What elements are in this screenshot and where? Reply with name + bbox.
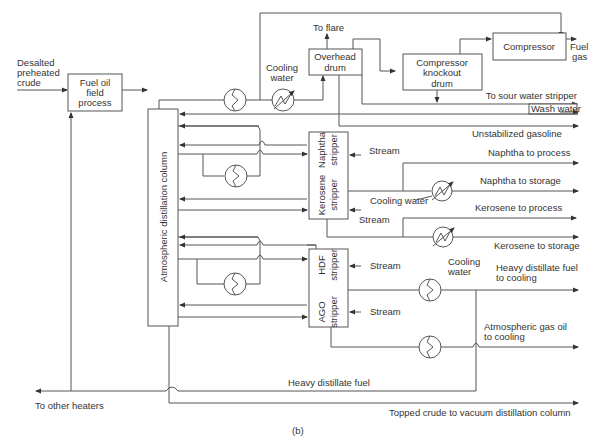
overhead-heat-exchanger-icon bbox=[224, 89, 246, 111]
ago-cooler-icon bbox=[419, 336, 441, 358]
naphtha-vapor-return-line bbox=[180, 141, 307, 145]
heavy-distillate-fuel-to-cooling-label: Heavy distillate fuel to cooling bbox=[496, 262, 578, 283]
kerosene-to-process-label: Kerosene to process bbox=[475, 202, 562, 213]
svg-text:AGO: AGO bbox=[316, 301, 327, 322]
kerosene-cooler-icon bbox=[433, 227, 454, 247]
to-flare-label: To flare bbox=[313, 22, 344, 33]
svg-text:Compressor: Compressor bbox=[503, 41, 555, 52]
compressor-box: Compressor bbox=[493, 33, 566, 60]
unstabilized-gasoline-label: Unstabilized gasoline bbox=[472, 128, 562, 139]
naphtha-kerosene-stripper-box: Naphtha stripper Kerosene stripper bbox=[309, 131, 348, 219]
hdf-cooler-icon bbox=[419, 279, 441, 301]
pumparound-1-exchanger-icon bbox=[225, 165, 247, 187]
svg-text:HDF: HDF bbox=[316, 255, 327, 275]
svg-text:to cooling: to cooling bbox=[484, 331, 525, 342]
topped-crude-label: Topped crude to vacuum distillation colu… bbox=[389, 407, 571, 418]
pumparound-2-line bbox=[197, 259, 224, 284]
hdf-top-stub bbox=[307, 245, 316, 249]
atmospheric-gas-oil-to-cooling-label: Atmospheric gas oil to cooling bbox=[484, 321, 567, 342]
kerosene-to-storage-label: Kerosene to storage bbox=[494, 240, 580, 251]
crude-distillation-flow-diagram: Desalted preheated crude Fuel oil field … bbox=[0, 0, 597, 448]
cooling-water-top-label: Cooling water bbox=[266, 62, 298, 83]
svg-text:Naphtha: Naphtha bbox=[316, 131, 327, 168]
hdf-draw-line bbox=[178, 255, 307, 259]
cooling-water-mid-label: Cooling water bbox=[370, 195, 428, 206]
svg-text:Atmospheric distillation colum: Atmospheric distillation column bbox=[158, 152, 169, 282]
knockout-to-compressor-line bbox=[460, 39, 491, 54]
svg-text:drum: drum bbox=[431, 78, 453, 89]
naphtha-draw-line bbox=[178, 150, 307, 154]
feed-label: Desalted preheated crude bbox=[17, 57, 60, 88]
svg-text:process: process bbox=[78, 97, 112, 108]
overhead-drum-box: Overhead drum bbox=[309, 49, 362, 75]
to-other-heaters-line bbox=[36, 387, 178, 391]
hdf-vapor-return-line bbox=[180, 241, 316, 245]
svg-text:to cooling: to cooling bbox=[496, 272, 537, 283]
ago-product-line bbox=[331, 327, 419, 347]
svg-text:knockout: knockout bbox=[423, 67, 461, 78]
naphtha-to-storage-label: Naphtha to storage bbox=[480, 175, 561, 186]
figure-caption: (b) bbox=[292, 425, 304, 436]
svg-text:Overhead: Overhead bbox=[314, 51, 356, 62]
stream-naphtha-label: Stream bbox=[369, 145, 400, 156]
svg-text:stripper: stripper bbox=[328, 296, 339, 328]
heavy-distillate-fuel-label: Heavy distillate fuel bbox=[288, 377, 370, 388]
compressor-knockout-drum-box: Compressor knockout drum bbox=[403, 54, 482, 90]
cooling-water-condenser-icon bbox=[272, 89, 294, 111]
column-overhead-line bbox=[159, 100, 225, 109]
pumparound-2-exchanger-icon bbox=[224, 273, 246, 295]
to-sour-water-stripper-label: To sour water stripper bbox=[486, 90, 577, 101]
svg-text:water: water bbox=[447, 266, 471, 277]
condenser-to-drum-line bbox=[294, 76, 323, 100]
naphtha-cooler-icon bbox=[432, 181, 453, 201]
svg-text:water: water bbox=[269, 72, 293, 83]
fuel-oil-field-process-box: Fuel oil field process bbox=[68, 74, 122, 111]
cooling-water-low-label: Cooling water bbox=[447, 256, 480, 277]
stream-ago-label: Stream bbox=[370, 306, 401, 317]
fuel-gas-label: Fuel gas bbox=[570, 41, 588, 62]
to-other-heaters-label: To other heaters bbox=[35, 400, 104, 411]
svg-text:stripper: stripper bbox=[328, 249, 339, 281]
naphtha-to-process-label: Naphtha to process bbox=[488, 147, 571, 158]
kerosene-to-process-line bbox=[403, 218, 576, 237]
stream-hdf-label: Stream bbox=[370, 260, 401, 271]
svg-text:crude: crude bbox=[17, 77, 41, 88]
svg-text:stripper: stripper bbox=[328, 179, 339, 211]
atmospheric-distillation-column: Atmospheric distillation column bbox=[148, 109, 178, 326]
svg-text:gas: gas bbox=[572, 51, 588, 62]
svg-text:stripper: stripper bbox=[328, 134, 339, 166]
svg-text:Kerosene: Kerosene bbox=[316, 175, 327, 216]
svg-text:drum: drum bbox=[324, 62, 346, 73]
stream-kerosene-label: Stream bbox=[359, 214, 390, 225]
pumparound-1-line bbox=[203, 154, 224, 176]
ago-to-cooling-line bbox=[441, 343, 578, 347]
hdf-ago-stripper-box: HDF stripper AGO stripper bbox=[309, 249, 348, 328]
